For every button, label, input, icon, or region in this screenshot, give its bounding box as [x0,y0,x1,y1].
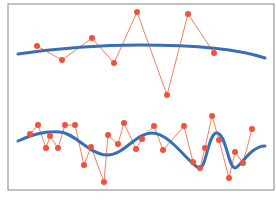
plot-frame [8,4,274,190]
data-point [226,175,232,181]
data-point [202,145,208,151]
data-point [111,60,117,66]
data-point [133,146,139,152]
data-point [160,147,166,153]
data-point [232,149,238,155]
data-point [164,92,170,98]
data-point [101,179,107,185]
data-point [88,144,94,150]
data-point [105,132,111,138]
data-point [240,160,246,166]
sample-connector-line [37,12,214,95]
data-point [59,57,65,63]
chart-container [0,0,276,200]
data-point [209,113,215,119]
data-point [43,145,49,151]
data-point [47,133,53,139]
top-samples-line [37,12,214,95]
data-point [81,162,87,168]
data-point [181,123,187,129]
data-point [249,126,255,132]
data-point [115,141,121,147]
data-point [72,122,78,128]
data-point [89,35,95,41]
data-point [197,165,203,171]
data-point [27,131,33,137]
data-point [134,9,140,15]
data-point [62,122,68,128]
top-samples-points [34,9,217,98]
data-point [190,159,196,165]
data-point [35,122,41,128]
plot-area [0,0,276,200]
data-point [55,145,61,151]
data-point [139,136,145,142]
data-point [185,11,191,17]
data-point [216,137,222,143]
data-point [121,120,127,126]
bottom-samples-points [27,113,255,185]
data-point [34,43,40,49]
data-point [211,50,217,56]
data-point [151,123,157,129]
